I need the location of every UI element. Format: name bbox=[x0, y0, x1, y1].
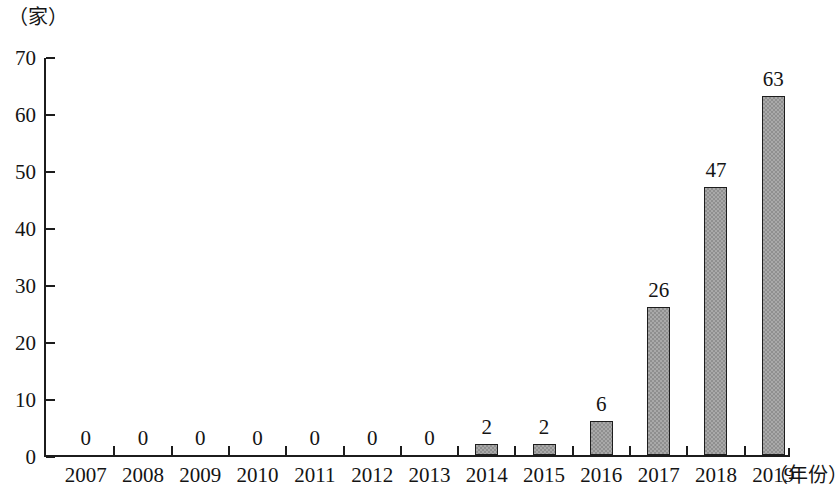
bar-value-label: 6 bbox=[596, 394, 607, 415]
y-axis-tick-label: 0 bbox=[26, 447, 37, 468]
x-axis-tick bbox=[171, 446, 173, 455]
x-axis-label: 2007 bbox=[65, 463, 107, 487]
bar bbox=[533, 444, 556, 455]
x-axis-end-tick bbox=[788, 448, 790, 457]
bar-value-label: 0 bbox=[310, 428, 321, 449]
x-axis-label: 2016 bbox=[580, 463, 622, 487]
bar-value-label: 0 bbox=[424, 428, 435, 449]
bar bbox=[590, 421, 613, 455]
y-axis-tick-label: 50 bbox=[15, 162, 36, 183]
y-axis-tick-mark bbox=[46, 57, 55, 59]
y-axis-tick-label: 40 bbox=[15, 219, 36, 240]
x-axis-tick bbox=[343, 446, 345, 455]
bar-value-label: 63 bbox=[763, 69, 784, 90]
y-axis-unit-label: （家） bbox=[8, 4, 68, 30]
x-axis-label: 2013 bbox=[408, 463, 450, 487]
x-axis-label: 2009 bbox=[179, 463, 221, 487]
bar-value-label: 0 bbox=[138, 428, 149, 449]
x-axis-label: 2018 bbox=[695, 463, 737, 487]
bar bbox=[762, 96, 785, 455]
x-axis-tick bbox=[457, 446, 459, 455]
y-axis-tick-mark bbox=[46, 114, 55, 116]
x-axis-label: 2008 bbox=[122, 463, 164, 487]
y-axis-tick-label: 30 bbox=[15, 276, 36, 297]
bar-value-label: 0 bbox=[367, 428, 378, 449]
y-axis-line bbox=[44, 58, 46, 457]
x-axis-title: （年份） bbox=[768, 462, 839, 488]
y-axis-tick-label: 70 bbox=[15, 48, 36, 69]
y-axis-tick-mark bbox=[46, 285, 55, 287]
y-axis-tick-mark bbox=[46, 171, 55, 173]
x-axis-label: 2010 bbox=[237, 463, 279, 487]
bar bbox=[647, 307, 670, 455]
bar-value-label: 2 bbox=[482, 417, 493, 438]
x-axis-tick bbox=[629, 446, 631, 455]
x-axis-tick bbox=[228, 446, 230, 455]
x-axis-line bbox=[44, 455, 790, 457]
bar-value-label: 2 bbox=[539, 417, 550, 438]
x-axis-label: 2014 bbox=[466, 463, 508, 487]
x-axis-tick bbox=[572, 446, 574, 455]
bar-value-label: 0 bbox=[80, 428, 91, 449]
y-axis-tick-label: 10 bbox=[15, 390, 36, 411]
y-axis-tick-mark bbox=[46, 399, 55, 401]
bar-value-label: 0 bbox=[195, 428, 206, 449]
y-axis-tick-mark bbox=[46, 456, 55, 458]
bar-value-label: 0 bbox=[252, 428, 263, 449]
bar bbox=[475, 444, 498, 455]
x-axis-label: 2011 bbox=[294, 463, 335, 487]
x-axis-tick bbox=[744, 446, 746, 455]
x-axis-label: 2012 bbox=[351, 463, 393, 487]
x-axis-tick bbox=[285, 446, 287, 455]
bar-value-label: 26 bbox=[648, 280, 669, 301]
x-axis-tick bbox=[514, 446, 516, 455]
x-axis-tick bbox=[113, 446, 115, 455]
y-axis-tick-label: 60 bbox=[15, 105, 36, 126]
y-axis-tick-mark bbox=[46, 342, 55, 344]
bar-value-label: 47 bbox=[705, 160, 726, 181]
x-axis-label: 2017 bbox=[638, 463, 680, 487]
x-axis-label: 2015 bbox=[523, 463, 565, 487]
plot-area: 010203040506070 0000000226264763 bbox=[44, 58, 790, 457]
bar bbox=[704, 187, 727, 455]
x-axis-tick bbox=[400, 446, 402, 455]
y-axis-tick-label: 20 bbox=[15, 333, 36, 354]
y-axis-tick-mark bbox=[46, 228, 55, 230]
x-axis-tick bbox=[686, 446, 688, 455]
